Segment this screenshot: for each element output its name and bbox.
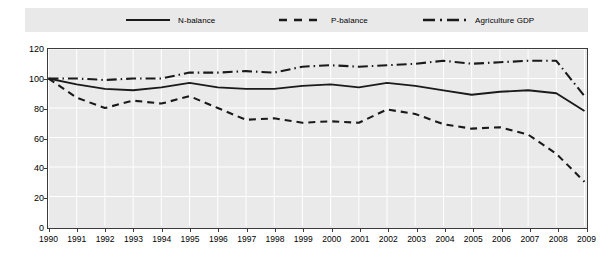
x-axis-tick-label: 1991 bbox=[67, 235, 86, 244]
x-axis-tick-mark bbox=[105, 228, 106, 232]
x-axis-tick-mark bbox=[247, 228, 248, 232]
x-axis-tick-mark bbox=[162, 228, 163, 232]
x-axis-tick-label: 2002 bbox=[379, 235, 398, 244]
x-axis-tick-label: 2009 bbox=[577, 235, 596, 244]
x-axis-tick-label: 1999 bbox=[294, 235, 313, 244]
x-axis: 1990199119921993199419951996199719981999… bbox=[0, 0, 609, 260]
x-axis-tick-label: 1992 bbox=[96, 235, 115, 244]
x-axis-tick-mark bbox=[49, 228, 50, 232]
x-axis-tick-mark bbox=[558, 228, 559, 232]
x-axis-tick-label: 1993 bbox=[124, 235, 143, 244]
x-axis-tick-label: 2006 bbox=[492, 235, 511, 244]
x-axis-tick-mark bbox=[587, 228, 588, 232]
x-axis-tick-mark bbox=[530, 228, 531, 232]
x-axis-tick-label: 2008 bbox=[549, 235, 568, 244]
x-axis-tick-mark bbox=[190, 228, 191, 232]
x-axis-tick-label: 1998 bbox=[266, 235, 285, 244]
x-axis-tick-label: 2003 bbox=[407, 235, 426, 244]
x-axis-tick-label: 1994 bbox=[152, 235, 171, 244]
x-axis-tick-label: 1995 bbox=[181, 235, 200, 244]
x-axis-tick-mark bbox=[417, 228, 418, 232]
x-axis-tick-mark bbox=[445, 228, 446, 232]
x-axis-tick-mark bbox=[218, 228, 219, 232]
x-axis-tick-mark bbox=[332, 228, 333, 232]
x-axis-tick-label: 2000 bbox=[322, 235, 341, 244]
x-axis-tick-label: 1990 bbox=[39, 235, 58, 244]
x-axis-tick-mark bbox=[473, 228, 474, 232]
x-axis-tick-label: 2001 bbox=[351, 235, 370, 244]
x-axis-tick-mark bbox=[502, 228, 503, 232]
x-axis-tick-mark bbox=[303, 228, 304, 232]
x-axis-tick-mark bbox=[275, 228, 276, 232]
x-axis-tick-label: 1996 bbox=[209, 235, 228, 244]
x-axis-tick-mark bbox=[388, 228, 389, 232]
x-axis-tick-label: 2005 bbox=[464, 235, 483, 244]
chart-page: N-balance P-balance Agriculture GDP 0204… bbox=[0, 0, 609, 260]
x-axis-tick-label: 1997 bbox=[237, 235, 256, 244]
x-axis-tick-mark bbox=[77, 228, 78, 232]
x-axis-tick-mark bbox=[133, 228, 134, 232]
x-axis-tick-label: 2004 bbox=[435, 235, 454, 244]
x-axis-tick-label: 2007 bbox=[520, 235, 539, 244]
x-axis-tick-mark bbox=[360, 228, 361, 232]
